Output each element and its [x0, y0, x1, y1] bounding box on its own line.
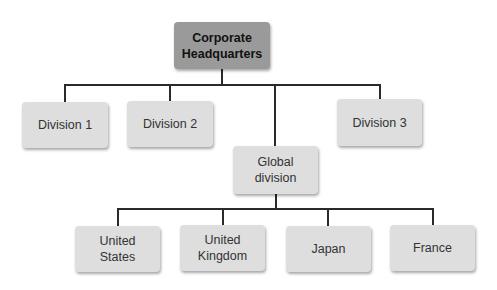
node-label: Global — [257, 155, 293, 169]
node-corporate-headquarters: CorporateHeadquarters — [174, 22, 270, 69]
connector-uk — [222, 208, 224, 225]
connector-division1 — [64, 84, 66, 102]
node-japan: Japan — [286, 226, 371, 272]
node-label: Division 2 — [143, 116, 197, 132]
node-division-2: Division 2 — [127, 101, 213, 147]
connector-france — [432, 208, 434, 226]
node-united-kingdom: UnitedKingdom — [180, 225, 265, 271]
connector-global — [274, 84, 276, 146]
connector-root-stem — [221, 69, 223, 85]
connector-division2 — [169, 84, 171, 101]
node-label: Kingdom — [198, 249, 247, 263]
node-label: division — [255, 171, 297, 185]
node-division-1: Division 1 — [22, 102, 108, 148]
connector-global-stem — [275, 194, 277, 209]
node-united-states: UnitedStates — [75, 226, 160, 272]
node-label: Division 1 — [38, 117, 92, 133]
node-label: Japan — [311, 241, 345, 257]
connector-level2-bar — [117, 208, 433, 210]
node-label: Corporate — [192, 31, 252, 45]
connector-level1-bar — [64, 84, 380, 86]
node-label: Division 3 — [352, 115, 406, 131]
node-france: France — [390, 225, 475, 271]
node-label: United — [204, 233, 240, 247]
node-global-division: Globaldivision — [233, 146, 318, 194]
connector-japan — [327, 208, 329, 226]
connector-us — [117, 208, 119, 226]
node-division-3: Division 3 — [337, 99, 422, 146]
connector-division3 — [379, 84, 381, 99]
node-label: France — [413, 240, 452, 256]
node-label: Headquarters — [182, 47, 263, 61]
node-label: United — [99, 234, 135, 248]
node-label: States — [100, 250, 135, 264]
